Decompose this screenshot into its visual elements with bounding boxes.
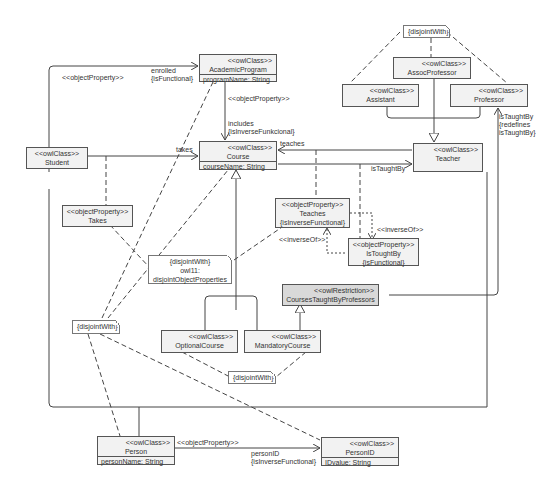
note-line: owl11: (153, 266, 227, 275)
class-name: Professor (451, 95, 527, 104)
note-text: {disjointWith} (233, 374, 273, 381)
label-is-inverse-functional: {isInverseFunctional} (251, 458, 316, 466)
class-name: Person (98, 447, 174, 456)
label-is-taught-by-redefines-3: isTaughtBy} (499, 129, 536, 137)
stereotype: <<owlClass>> (200, 55, 276, 65)
note-disjoint-object-properties[interactable]: {disjointWith} owl11: disjointObjectProp… (148, 255, 232, 284)
class-name: AssocProfessor (394, 68, 470, 77)
label-object-property-enrolled: <<objectProperty>> (62, 74, 124, 82)
stereotype: <<owlClass>> (245, 331, 320, 341)
label-object-property-includes: <<objectProperty>> (228, 95, 290, 103)
property-name: Takes (63, 216, 132, 225)
object-property-teaches[interactable]: <<objectProperty>> Teaches {isInverseFun… (275, 198, 350, 228)
label-inverse-of-right: <<inverseOf>> (377, 226, 423, 234)
stereotype: <<owlClass>> (162, 331, 237, 341)
property-constraint: {isFunctional} (349, 258, 418, 267)
note-text: {disjointWith} (408, 28, 448, 35)
stereotype: <<objectProperty>> (276, 199, 349, 209)
label-is-taught-by-redefines-2: {redefines (499, 121, 530, 129)
stereotype: <<owlClass>> (343, 85, 418, 95)
class-assistant[interactable]: <<owlClass>> Assistant (342, 84, 419, 107)
class-name: Course (200, 152, 276, 161)
label-object-property-person: <<objectProperty>> (177, 439, 239, 447)
object-property-is-taught-by[interactable]: <<objectProperty>> IsToughtBy {isFunctio… (348, 238, 419, 266)
stereotype: <<owlClass>> (200, 142, 276, 152)
label-teaches: teaches (280, 140, 305, 148)
class-assoc-professor[interactable]: <<owlClass>> AssocProfessor (393, 57, 471, 79)
stereotype: <<owlClass>> (414, 144, 482, 154)
label-enrolled: enrolled (151, 67, 176, 75)
label-takes: takes (176, 146, 193, 154)
property-name: Teaches (276, 209, 349, 218)
class-student[interactable]: <<owlClass>> Student (26, 147, 88, 169)
class-optional-course[interactable]: <<owlClass>> OptionalCourse (161, 330, 238, 353)
label-includes: includes (228, 120, 254, 128)
class-attribute: courseName: String (200, 161, 276, 171)
class-name: MandatoryCourse (245, 341, 320, 350)
note-line: {disjointWith} (153, 257, 227, 266)
stereotype: <<owlClass>> (322, 438, 398, 448)
class-course[interactable]: <<owlClass>> Course courseName: String (199, 141, 277, 170)
label-is-functional: {isFunctional} (151, 75, 193, 83)
class-name: PersonID (322, 448, 398, 457)
label-is-taught-by: isTaughtBy (371, 165, 405, 173)
class-attribute: personName: String (98, 456, 174, 466)
stereotype: <<owlRestriction>> (283, 285, 378, 295)
class-person[interactable]: <<owlClass>> Person personName: String (97, 436, 175, 465)
property-name: IsToughtBy (349, 249, 418, 258)
property-constraint: {isInverseFunctional} (276, 218, 349, 227)
note-line: disjointObjectProperties (153, 275, 227, 284)
stereotype: <<owlClass>> (27, 148, 87, 158)
edge-optional-mandatory-bracket (205, 296, 257, 330)
stereotype: <<objectProperty>> (63, 206, 132, 216)
label-is-taught-by-redefines-1: isTaughtBy (499, 113, 533, 121)
label-person-id-role: personID (251, 450, 279, 458)
note-disjoint-left[interactable]: {disjointWith} (72, 320, 120, 334)
class-name: Teacher (414, 154, 482, 163)
class-academic-program[interactable]: <<owlClass>> AcademicProgram programName… (199, 54, 277, 82)
class-name: OptionalCourse (162, 341, 237, 350)
stereotype: <<objectProperty>> (349, 239, 418, 249)
label-is-inverse-funkcional: {isInverseFunkcional} (228, 128, 295, 136)
stereotype: <<owlClass>> (98, 437, 174, 447)
note-text: {disjointWith} (77, 323, 117, 330)
stereotype: <<owlClass>> (451, 85, 527, 95)
restriction-name: CoursesTaughtByProfessors (283, 295, 378, 304)
note-disjoint-top[interactable]: {disjointWith} (403, 25, 450, 38)
label-inverse-of-left: <<inverseOf>> (279, 236, 325, 244)
class-person-id[interactable]: <<owlClass>> PersonID IDvalue: String (321, 437, 399, 466)
class-name: Student (27, 158, 87, 167)
restriction-courses-taught-by-professors[interactable]: <<owlRestriction>> CoursesTaughtByProfes… (282, 284, 379, 306)
class-attribute: programName: String (200, 74, 276, 84)
stereotype: <<owlClass>> (394, 58, 470, 68)
class-attribute: IDvalue: String (322, 457, 398, 467)
class-name: Assistant (343, 95, 418, 104)
class-teacher[interactable]: <<owlClass>> Teacher (413, 143, 483, 172)
note-disjoint-courses[interactable]: {disjointWith} (228, 371, 276, 384)
class-professor[interactable]: <<owlClass>> Professor (450, 84, 528, 107)
class-name: AcademicProgram (200, 65, 276, 74)
object-property-takes[interactable]: <<objectProperty>> Takes (62, 205, 133, 227)
class-mandatory-course[interactable]: <<owlClass>> MandatoryCourse (244, 330, 321, 353)
